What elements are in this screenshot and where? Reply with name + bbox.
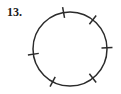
figure-container: 13. bbox=[0, 0, 121, 94]
tick-left bbox=[28, 53, 39, 55]
tick-lower-left bbox=[50, 77, 55, 87]
circle-diagram-svg bbox=[0, 0, 121, 94]
circle-outline bbox=[33, 12, 107, 86]
tick-top bbox=[63, 7, 65, 18]
tick-mark-group bbox=[28, 7, 113, 86]
